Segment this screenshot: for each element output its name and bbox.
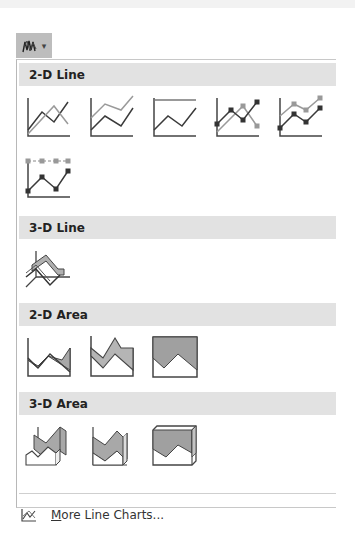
100-stacked-line-chart-icon <box>150 94 198 140</box>
gallery-divider <box>19 493 336 494</box>
section-header-2d-area: 2-D Area <box>19 303 336 326</box>
more-line-charts-link[interactable]: More Line Charts... <box>21 508 164 522</box>
chart-option-100-stacked-area[interactable] <box>149 332 199 382</box>
section-header-3d-area: 3-D Area <box>19 392 336 415</box>
chart-option-3d-area[interactable] <box>23 421 73 471</box>
line-markers-chart-icon <box>213 94 261 140</box>
section-header-2d-line: 2-D Line <box>19 63 336 86</box>
area-chart-icon <box>24 334 72 380</box>
more-line-charts-label: More Line Charts... <box>51 508 164 522</box>
3d-100-stacked-area-chart-icon <box>150 423 198 469</box>
100-stacked-area-chart-icon <box>150 334 198 380</box>
chevron-down-icon: ▾ <box>42 41 47 51</box>
3d-line-chart-icon <box>24 247 72 293</box>
chart-option-line[interactable] <box>23 92 73 142</box>
chart-option-3d-stacked-area[interactable] <box>86 421 136 471</box>
chart-option-stacked-area[interactable] <box>86 332 136 382</box>
chart-option-area[interactable] <box>23 332 73 382</box>
3d-stacked-area-chart-icon <box>87 423 135 469</box>
3d-area-chart-icon <box>24 423 72 469</box>
chart-option-stacked-line-with-markers[interactable] <box>275 92 325 142</box>
chart-option-line-with-markers[interactable] <box>212 92 262 142</box>
chart-option-100-stacked-line[interactable] <box>149 92 199 142</box>
chart-option-stacked-line[interactable] <box>86 92 136 142</box>
chart-option-3d-100-stacked-area[interactable] <box>149 421 199 471</box>
insert-line-chart-button[interactable]: ▾ <box>16 33 52 58</box>
stacked-area-chart-icon <box>87 334 135 380</box>
line-chart-gallery: 2-D Line <box>16 59 336 508</box>
line-chart-icon <box>24 94 72 140</box>
chart-option-3d-line[interactable] <box>23 245 73 295</box>
line-chart-icon <box>21 508 37 522</box>
top-strip <box>0 0 355 8</box>
stacked-line-chart-icon <box>87 94 135 140</box>
stacked-line-markers-chart-icon <box>276 94 324 140</box>
line-chart-icon <box>22 38 40 54</box>
section-header-3d-line: 3-D Line <box>19 216 336 239</box>
100-stacked-line-markers-chart-icon <box>24 155 72 201</box>
chart-option-100-stacked-line-with-markers[interactable] <box>23 153 73 203</box>
